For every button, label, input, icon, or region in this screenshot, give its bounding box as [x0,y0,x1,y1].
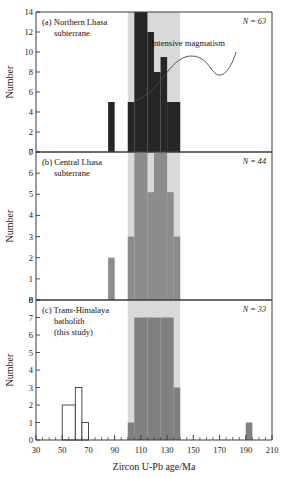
histogram-bar [174,237,181,300]
y-tick-label: 3 [29,383,33,393]
panel-title-line2: subterrane [54,28,90,38]
x-tick-label: 70 [84,445,93,455]
panel-c: 012345678(c) Trans-Himalayabatholith(thi… [29,295,272,445]
x-tick-label: 50 [58,445,67,455]
y-tick-label: 6 [29,87,33,97]
panel-title-line2: subterrane [54,168,90,178]
y-tick-label: 5 [29,348,33,358]
y-tick-label: 6 [29,168,33,178]
y-axis-title: Number [4,353,15,386]
y-tick-label: 6 [29,330,33,340]
sample-count-label: N = 33 [242,305,266,314]
histogram-bar [134,152,147,300]
histogram-svg: 02468101214(a) Northern LhasasubterraneN… [0,0,282,478]
y-tick-label: 2 [29,127,33,137]
x-tick-label: 90 [110,445,119,455]
x-tick-label: 130 [161,445,174,455]
histogram-bar [108,258,115,300]
histogram-bar [147,192,154,300]
figure-histogram-panels: 02468101214(a) Northern LhasasubterraneN… [0,0,282,478]
panel-title-line2: batholith [54,316,85,326]
x-tick-label: 150 [187,445,200,455]
histogram-bar [75,388,82,441]
y-tick-label: 8 [29,67,33,77]
y-tick-label: 0 [29,435,33,445]
y-tick-label: 14 [25,7,34,17]
panel-title: (a) Northern Lhasa [42,17,108,27]
histogram-bar [62,405,75,440]
y-tick-label: 1 [29,418,33,428]
x-tick-label: 210 [266,445,279,455]
y-tick-label: 12 [25,27,34,37]
y-tick-label: 8 [29,295,33,305]
y-tick-label: 2 [29,400,33,410]
histogram-bar [161,57,168,152]
panel-title: (c) Trans-Himalaya [42,305,109,315]
histogram-bar [128,423,135,441]
y-tick-label: 1 [29,274,33,284]
histogram-bar [167,102,180,152]
x-axis-title: Zircon U-Pb age/Ma [113,461,196,472]
y-axis-title: Number [4,65,15,98]
histogram-bar [167,192,174,300]
x-tick-label: 170 [213,445,226,455]
histogram-bar [246,423,253,441]
annotation-text: Intensive magmatism [151,38,225,48]
y-tick-label: 4 [29,210,34,220]
histogram-bar [128,102,135,152]
histogram-bar [174,388,181,441]
histogram-bar [147,318,160,441]
histogram-bar [134,12,147,152]
y-tick-label: 2 [29,253,33,263]
histogram-bar [161,318,174,441]
y-tick-label: 7 [29,147,33,157]
x-axis: 30507090110130150170190210Zircon U-Pb ag… [32,435,279,472]
panel-title: (b) Central Lhasa [42,157,102,167]
sample-count-label: N = 63 [242,17,266,26]
histogram-bar [108,102,115,152]
histogram-bar [134,318,147,441]
x-tick-label: 110 [135,445,147,455]
sample-count-label: N = 44 [242,157,266,166]
y-tick-label: 10 [25,47,34,57]
y-axis-title: Number [4,209,15,242]
x-tick-label: 30 [32,445,41,455]
histogram-bar [82,423,89,441]
x-tick-label: 190 [239,445,252,455]
y-tick-label: 4 [29,107,34,117]
y-tick-label: 3 [29,232,33,242]
panel-title-line3: (this study) [54,327,93,337]
histogram-bar [154,152,167,300]
y-tick-label: 7 [29,313,33,323]
y-tick-label: 5 [29,189,33,199]
y-tick-label: 4 [29,365,34,375]
histogram-bar [128,237,135,300]
